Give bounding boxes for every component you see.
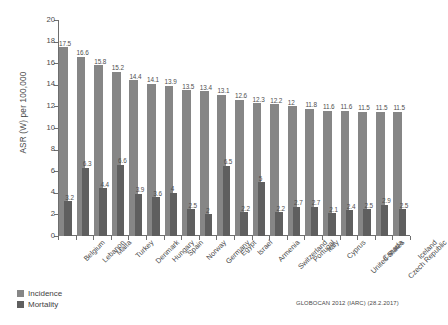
bar-mortality[interactable]: 4: [170, 193, 177, 236]
legend-swatch-incidence-icon: [17, 290, 24, 297]
y-tick-label: 8: [51, 144, 55, 153]
y-tick-label: 10: [47, 123, 55, 132]
bar-value-label-incidence: 12.3: [253, 96, 265, 103]
bar-group[interactable]: 16.66.3: [76, 20, 94, 236]
x-axis-label: Armenia: [276, 238, 302, 264]
bar-group[interactable]: 12.62.2: [234, 20, 252, 236]
bar-value-label-incidence: 12.6: [235, 92, 247, 99]
bar-mortality[interactable]: 2.5: [363, 209, 370, 236]
bar-group[interactable]: 11.62.4: [340, 20, 358, 236]
bar-group[interactable]: 12.22.2: [269, 20, 287, 236]
bar-group[interactable]: 11.52.5: [357, 20, 375, 236]
bar-mortality[interactable]: 3.2: [64, 201, 71, 236]
bar-group[interactable]: 15.84.4: [93, 20, 111, 236]
bar-value-label-incidence: 11.5: [376, 104, 388, 111]
bar-group[interactable]: 13.94: [164, 20, 182, 236]
bar-mortality[interactable]: 6.5: [223, 166, 230, 236]
bar-group[interactable]: 14.43.9: [128, 20, 146, 236]
bar-value-label-mortality: 6.3: [83, 160, 92, 167]
bar-value-label-incidence: 13.4: [200, 84, 212, 91]
bar-value-label-incidence: 11.5: [393, 104, 405, 111]
y-tick-label: 12: [47, 101, 55, 110]
y-tick-label: 0: [51, 231, 55, 240]
bar-value-label-incidence: 15.2: [112, 64, 124, 71]
legend-item-incidence: Incidence: [17, 288, 62, 299]
bar-group[interactable]: 11.82.7: [304, 20, 322, 236]
bar-group[interactable]: 11.52.5: [392, 20, 410, 236]
y-tick-label: 14: [47, 79, 55, 88]
bar-mortality[interactable]: 3.6: [152, 197, 159, 236]
bar-value-label-mortality: 2.5: [188, 202, 197, 209]
bar-value-label-mortality: 2.1: [329, 206, 338, 213]
bar-value-label-mortality: 2.7: [294, 199, 303, 206]
bar-value-label-mortality: 3.2: [65, 194, 74, 201]
y-axis-title: ASR (W) per 100,000: [19, 33, 28, 193]
bar-mortality[interactable]: 5: [258, 182, 265, 236]
bar-mortality[interactable]: 2.4: [346, 210, 353, 236]
bar-group[interactable]: 13.16.5: [216, 20, 234, 236]
y-tick-label: 6: [51, 166, 55, 175]
bar-value-label-mortality: 2.5: [400, 202, 409, 209]
bar-mortality[interactable]: 2.1: [328, 213, 335, 236]
bar-value-label-mortality: 4: [171, 185, 174, 192]
plot-area: 02468101214161820 17.53.216.66.315.84.41…: [58, 20, 410, 236]
bar-value-label-mortality: 6.6: [118, 157, 127, 164]
bar-mortality[interactable]: 2.9: [381, 205, 388, 236]
bar-group[interactable]: 17.53.2: [58, 20, 76, 236]
bar-mortality[interactable]: 3.9: [135, 194, 142, 236]
bar-value-label-incidence: 11.8: [305, 101, 317, 108]
bar-value-label-mortality: 6.5: [224, 158, 233, 165]
bar-value-label-mortality: 2: [206, 207, 209, 214]
bar-group[interactable]: 13.42: [199, 20, 217, 236]
legend-swatch-mortality-icon: [17, 301, 24, 308]
y-tick-label: 18: [47, 36, 55, 45]
bar-group[interactable]: 12.35: [252, 20, 270, 236]
y-tick-label: 2: [51, 209, 55, 218]
bar-group[interactable]: 14.13.6: [146, 20, 164, 236]
bar-value-label-mortality: 2.4: [347, 203, 356, 210]
bar-value-label-incidence: 11.6: [341, 103, 353, 110]
x-tick-mark: [410, 236, 411, 240]
x-axis-label: Turkey: [133, 238, 155, 260]
bar-value-label-mortality: 2.7: [312, 199, 321, 206]
bar-value-label-mortality: 4.4: [100, 181, 109, 188]
bar-value-label-incidence: 11.5: [358, 104, 370, 111]
bar-mortality[interactable]: 4.4: [99, 188, 106, 236]
y-tick-label: 20: [47, 15, 55, 24]
bar-group[interactable]: 13.52.5: [181, 20, 199, 236]
bar-mortality[interactable]: 2.2: [275, 212, 282, 236]
source-note: GLOBOCAN 2012 (IARC) (28.2.2017): [296, 300, 399, 306]
bar-mortality[interactable]: 2.5: [399, 209, 406, 236]
bar-group[interactable]: 11.62.1: [322, 20, 340, 236]
bar-value-label-incidence: 11.6: [323, 103, 335, 110]
bar-value-label-incidence: 16.6: [77, 49, 89, 56]
legend-label-incidence: Incidence: [28, 289, 62, 298]
bar-mortality[interactable]: 6.3: [82, 168, 89, 236]
bar-value-label-incidence: 14.1: [147, 76, 159, 83]
bar-mortality[interactable]: 2: [205, 214, 212, 236]
legend-item-mortality: Mortality: [17, 299, 62, 310]
legend-label-mortality: Mortality: [28, 300, 58, 309]
chart-legend: Incidence Mortality: [17, 288, 62, 310]
bar-mortality[interactable]: 6.6: [117, 165, 124, 236]
bar-mortality[interactable]: 2.7: [293, 207, 300, 236]
bar-value-label-mortality: 3.6: [153, 190, 162, 197]
bars-layer: 17.53.216.66.315.84.415.26.614.43.914.13…: [58, 20, 410, 236]
bar-group[interactable]: 122.7: [287, 20, 305, 236]
x-axis-label: Canada: [381, 238, 405, 262]
bar-value-label-incidence: 13.5: [182, 83, 194, 90]
bar-value-label-mortality: 2.2: [276, 205, 285, 212]
bar-mortality[interactable]: 2.7: [311, 207, 318, 236]
y-tick-label: 16: [47, 58, 55, 67]
bar-mortality[interactable]: 2.5: [187, 209, 194, 236]
bar-group[interactable]: 11.52.9: [375, 20, 393, 236]
bar-value-label-mortality: 2.9: [382, 197, 391, 204]
x-axis-label: Israel: [255, 238, 274, 257]
bar-value-label-mortality: 5: [259, 175, 262, 182]
bar-value-label-incidence: 12.2: [270, 97, 282, 104]
x-axis-category-labels: BelgiumLebanonMaltaTurkeyDenmarkHungaryS…: [58, 238, 410, 286]
bar-value-label-mortality: 2.2: [241, 205, 250, 212]
bar-mortality[interactable]: 2.2: [240, 212, 247, 236]
bar-group[interactable]: 15.26.6: [111, 20, 129, 236]
